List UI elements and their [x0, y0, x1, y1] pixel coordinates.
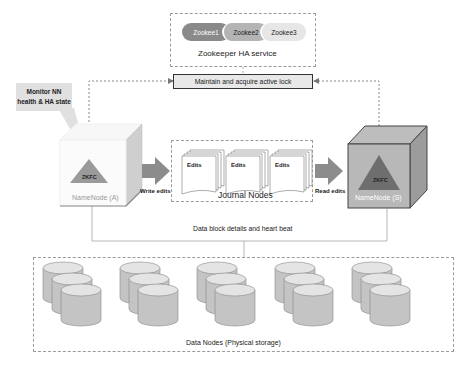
lock-box-label: Maintain and acquire active lock: [195, 78, 292, 85]
write-edits-label: Write edits: [140, 188, 171, 194]
namenode-active-label: NameNode (A): [72, 194, 119, 201]
zkfc-a-label: ZKFC: [82, 174, 97, 180]
zookeeper-title: Zookeeper HA service: [198, 49, 277, 58]
journal-edits-1: Edits: [187, 162, 202, 168]
callout-line-1: Monitor NN: [16, 87, 72, 97]
journal-nodes-title: Journal Nodes: [218, 190, 273, 200]
monitor-callout: Monitor NN health & HA state: [16, 83, 72, 111]
data-nodes-box: [33, 257, 454, 352]
namenode-standby-label: NameNode (S): [355, 194, 402, 201]
lock-box: Maintain and acquire active lock: [173, 74, 313, 89]
callout-line-2: health & HA state: [16, 97, 72, 107]
journal-edits-3: Edits: [275, 162, 290, 168]
heartbeat-label: Data block details and heart beat: [193, 225, 292, 232]
zookeeper-node-3: Zookee3: [260, 23, 306, 41]
read-edits-arrow: [315, 157, 343, 185]
zkfc-s-label: ZKFC: [373, 177, 388, 183]
read-edits-label: Read edits: [315, 188, 345, 194]
data-nodes-title: Data Nodes (Physical storage): [186, 339, 281, 346]
write-edits-arrow: [142, 157, 170, 185]
journal-edits-2: Edits: [231, 162, 246, 168]
